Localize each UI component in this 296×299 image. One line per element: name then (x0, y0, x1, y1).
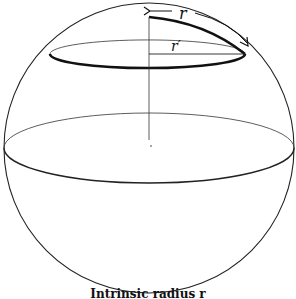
arrow-tail (144, 7, 172, 15)
arc-radius (149, 17, 245, 54)
label-r-prime: r′ (171, 38, 182, 54)
caption: Intrinsic radius r (0, 287, 296, 299)
sphere-diagram: r r′ (0, 0, 296, 299)
label-r: r (179, 4, 188, 23)
center-point (150, 145, 152, 147)
equator-front (4, 148, 294, 183)
latitude-circle (50, 54, 245, 68)
latitude-circle-back (50, 40, 245, 54)
